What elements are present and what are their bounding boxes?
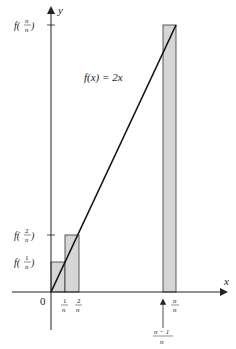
svg-text:2: 2 xyxy=(77,297,81,305)
y-tick-label-f1: f( 1 n ) xyxy=(14,254,35,271)
svg-text:n: n xyxy=(76,306,80,314)
svg-text:2: 2 xyxy=(25,227,29,235)
y-tick-label-fn: f( n n ) xyxy=(14,17,35,34)
function-label: f(x) = 2x xyxy=(84,71,123,84)
x-axis-label: x xyxy=(223,275,229,287)
x-tick-label-1n: 1 n xyxy=(61,297,68,314)
svg-text:n: n xyxy=(62,306,66,314)
y-tick-label-f2: f( 2 n ) xyxy=(14,227,35,244)
svg-text:n − 1: n − 1 xyxy=(154,328,169,336)
origin-label: 0 xyxy=(40,295,46,307)
svg-text:n: n xyxy=(173,297,177,305)
svg-text:f(: f( xyxy=(14,20,21,32)
svg-text:): ) xyxy=(30,230,35,242)
svg-text:n: n xyxy=(25,236,29,244)
x-tick-label-nn: n n xyxy=(171,297,179,314)
x-tick-label-2n: 2 n xyxy=(75,297,82,314)
y-axis-label: y xyxy=(57,4,63,16)
rectangle-n xyxy=(163,25,176,292)
svg-text:n: n xyxy=(173,306,177,314)
annotation-label-n-minus-1-over-n: n − 1 n xyxy=(153,328,173,346)
svg-text:1: 1 xyxy=(25,254,29,262)
svg-text:n: n xyxy=(160,338,164,346)
svg-text:n: n xyxy=(25,263,29,271)
svg-text:): ) xyxy=(30,257,35,269)
svg-text:f(: f( xyxy=(14,230,21,242)
function-line xyxy=(51,25,176,292)
rectangle-2 xyxy=(65,235,79,292)
svg-text:n: n xyxy=(25,17,29,25)
riemann-sum-diagram: y x 0 f(x) = 2x f( n n ) f( 2 n ) f( 1 n… xyxy=(0,0,236,349)
svg-text:f(: f( xyxy=(14,257,21,269)
svg-text:): ) xyxy=(30,20,35,32)
svg-text:n: n xyxy=(25,26,29,34)
svg-text:1: 1 xyxy=(63,297,67,305)
